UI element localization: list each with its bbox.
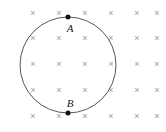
physics-figure-canvas: ×××××××××××××××××××××××××××××× AB: [0, 0, 166, 132]
point-marker-a: [66, 15, 71, 20]
point-label-b: B: [67, 98, 74, 109]
point-label-a: A: [67, 23, 74, 34]
current-loop-svg: [0, 0, 166, 132]
point-marker-b: [66, 111, 71, 116]
